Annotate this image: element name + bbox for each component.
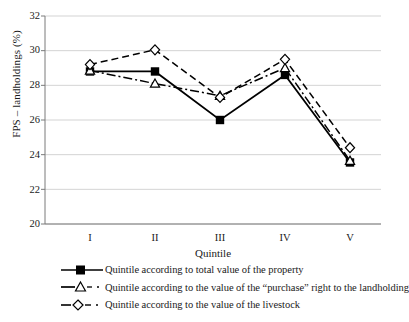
legend-item-livestock: Quintile according to the value of the l… [59,296,396,314]
legend-item-purchase-right: Quintile according to the value of the “… [59,279,396,297]
legend-key-open-triangle-icon [59,279,105,295]
legend-key-filled-square-icon [59,262,105,278]
legend-label-purchase-right: Quintile according to the value of the “… [105,282,409,293]
legend-label-livestock: Quintile according to the value of the l… [105,299,300,310]
legend-label-property: Quintile according to total value of the… [105,264,303,275]
legend-item-property: Quintile according to total value of the… [59,261,396,279]
chart-legend: Quintile according to total value of the… [59,261,396,314]
legend-key-open-diamond-icon [59,297,105,313]
